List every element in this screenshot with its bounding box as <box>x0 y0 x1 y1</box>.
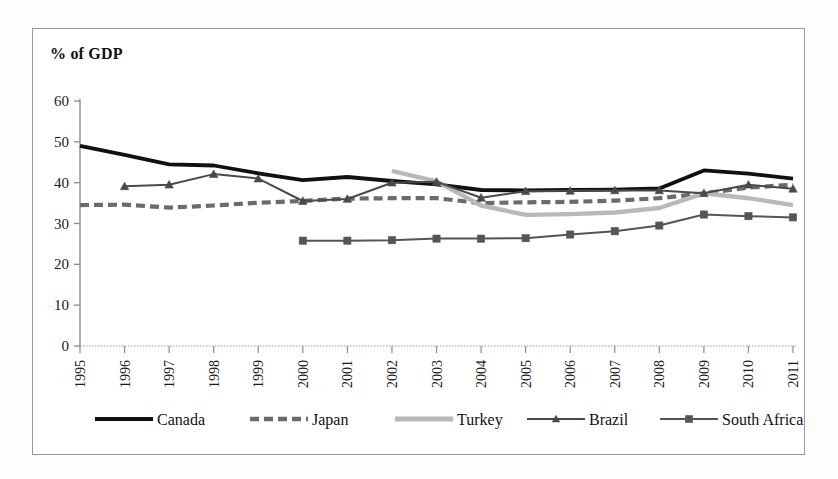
y-axis: 0102030405060 <box>54 93 797 354</box>
series-marker-square <box>388 237 395 244</box>
legend-label-japan: Japan <box>312 411 348 429</box>
series-marker-square <box>611 228 618 235</box>
line-chart-plot: 0102030405060 19951996199719981999200020… <box>33 29 806 456</box>
x-axis-tick-label: 2002 <box>385 360 400 388</box>
legend-label-turkey: Turkey <box>457 411 503 429</box>
series-marker-square <box>567 231 574 238</box>
x-axis-tick-label: 1996 <box>118 360 133 388</box>
y-axis-tick-label: 30 <box>54 216 69 232</box>
series-line-japan <box>80 185 793 208</box>
y-axis-tick-label: 20 <box>54 256 69 272</box>
series-marker-square <box>299 237 306 244</box>
x-axis-tick-label: 2005 <box>519 360 534 388</box>
legend-marker-square <box>685 415 693 423</box>
x-axis: 1995199619971998199920002001200220032004… <box>73 346 801 388</box>
x-axis-tick-label: 1998 <box>207 360 222 388</box>
chart-container: % of GDP 0102030405060 19951996199719981… <box>32 28 805 455</box>
chart-legend: CanadaJapanTurkeyBrazilSouth Africa <box>95 411 803 429</box>
legend-label-south-africa: South Africa <box>722 411 803 428</box>
y-axis-tick-label: 50 <box>54 134 69 150</box>
x-axis-tick-label: 2009 <box>697 360 712 388</box>
series-marker-square <box>656 222 663 229</box>
screenshot-canvas: % of GDP 0102030405060 19951996199719981… <box>0 0 838 479</box>
x-axis-tick-label: 1995 <box>73 360 88 388</box>
data-series-group <box>80 146 797 244</box>
series-line-turkey <box>392 171 793 215</box>
y-axis-tick-label: 0 <box>62 338 70 354</box>
x-axis-tick-label: 2000 <box>296 360 311 388</box>
x-axis-tick-label: 2003 <box>430 360 445 388</box>
x-axis-tick-label: 2004 <box>474 360 489 388</box>
legend-label-brazil: Brazil <box>589 411 629 428</box>
x-axis-tick-label: 2010 <box>741 360 756 388</box>
series-line-south-africa <box>303 215 793 241</box>
series-marker-square <box>344 237 351 244</box>
series-marker-square <box>433 235 440 242</box>
x-axis-tick-label: 1999 <box>251 360 266 388</box>
x-axis-tick-label: 2006 <box>563 360 578 388</box>
y-axis-tick-label: 10 <box>54 297 69 313</box>
series-marker-square <box>745 213 752 220</box>
y-axis-tick-label: 40 <box>54 175 69 191</box>
series-marker-square <box>789 214 796 221</box>
y-axis-tick-label: 60 <box>54 93 69 109</box>
series-marker-square <box>477 235 484 242</box>
x-axis-tick-label: 2011 <box>786 360 801 387</box>
x-axis-tick-label: 1997 <box>162 360 177 388</box>
x-axis-tick-label: 2007 <box>608 360 623 388</box>
legend-label-canada: Canada <box>157 411 205 428</box>
series-marker-square <box>522 235 529 242</box>
x-axis-tick-label: 2008 <box>652 360 667 388</box>
series-marker-square <box>700 211 707 218</box>
x-axis-tick-label: 2001 <box>340 360 355 388</box>
